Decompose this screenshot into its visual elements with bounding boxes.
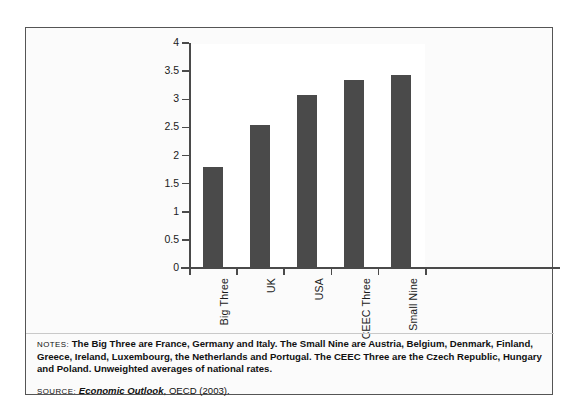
source-label: SOURCE:	[37, 387, 76, 396]
y-axis-tick	[182, 99, 189, 101]
x-axis-tick	[236, 268, 238, 275]
y-axis-tick	[182, 42, 189, 44]
y-axis-tick-label: 1	[139, 206, 179, 217]
x-axis-tick-label: Small Nine	[407, 278, 419, 331]
notes-divider	[26, 333, 554, 334]
x-axis-tick	[331, 268, 333, 275]
notes-text: The Big Three are France, Germany and It…	[37, 338, 542, 374]
bar	[203, 167, 223, 268]
figure-frame: 00.511.522.533.54 Big ThreeUKUSACEEC Thr…	[25, 27, 553, 395]
y-axis-tick-label: 0.5	[139, 234, 179, 245]
bar	[391, 75, 411, 268]
bar	[344, 80, 364, 268]
x-axis-tick	[283, 268, 285, 275]
x-axis-tick-label: Big Three	[218, 278, 230, 325]
notes-label: NOTES:	[37, 340, 69, 349]
x-axis-tick-label: UK	[265, 278, 277, 293]
x-axis-tick	[378, 268, 380, 275]
y-axis-tick-labels: 00.511.522.533.54	[134, 28, 179, 278]
y-axis-tick-label: 3	[139, 93, 179, 104]
y-axis-tick-label: 1.5	[139, 178, 179, 189]
x-axis-tick	[425, 268, 427, 275]
x-axis-tick	[189, 268, 191, 275]
bars-group	[189, 43, 425, 268]
y-axis-tick	[182, 239, 189, 241]
y-axis-tick	[182, 70, 189, 72]
bar-chart: 00.511.522.533.54 Big ThreeUKUSACEEC Thr…	[26, 28, 554, 333]
source-block: SOURCE: Economic Outlook, OECD (2003).	[37, 385, 545, 398]
y-axis-tick	[182, 211, 189, 213]
x-axis-tick-label: CEEC Three	[360, 278, 372, 339]
y-axis-tick-label: 2.5	[139, 121, 179, 132]
y-axis-tick-label: 4	[139, 37, 179, 48]
y-axis-tick	[182, 183, 189, 185]
y-axis-tick-label: 0	[139, 262, 179, 273]
source-title: Economic Outlook	[79, 385, 164, 396]
bar	[250, 125, 270, 268]
bar	[297, 95, 317, 268]
y-axis-tick	[182, 267, 189, 269]
y-axis-tick-label: 2	[139, 150, 179, 161]
y-axis-tick-label: 3.5	[139, 65, 179, 76]
notes-block: NOTES: The Big Three are France, Germany…	[37, 338, 545, 375]
y-axis-tick	[182, 155, 189, 157]
x-axis-tick-label: USA	[313, 278, 325, 300]
y-axis-tick	[182, 127, 189, 129]
source-rest: , OECD (2003).	[164, 385, 230, 396]
